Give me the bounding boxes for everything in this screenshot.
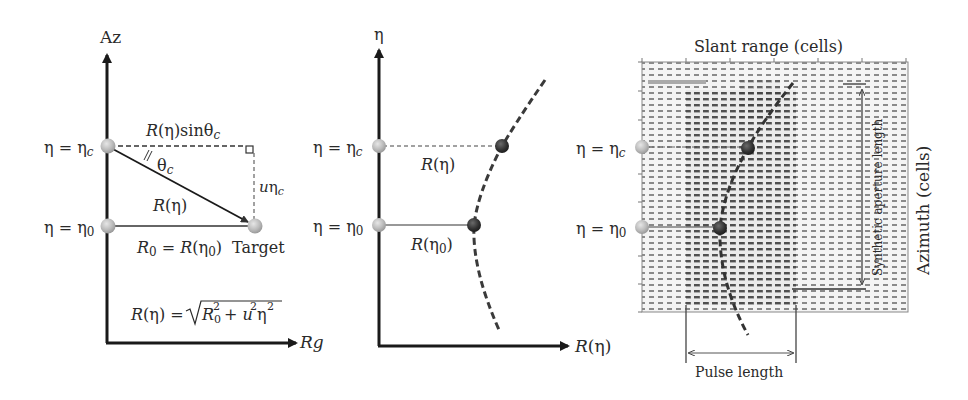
sensor-position-c-dot — [372, 139, 386, 153]
right-angle-marker — [246, 146, 253, 153]
axis-label-rg: Rg — [299, 332, 324, 352]
eta-c-label: η = ηc — [576, 139, 626, 160]
azimuth-label: Azimuth (cells) — [913, 146, 933, 276]
panel-range-curve: η R(η) η = ηc η = η0 R(η) R(η0) — [313, 25, 611, 356]
pulse-length-label: Pulse length — [695, 364, 783, 380]
curve-point-0-dot — [467, 218, 481, 232]
grid-caption — [648, 80, 706, 84]
panel-raw-data-grid: Slant range (cells) — [576, 37, 933, 380]
aperture-label: Synthetic aperture length — [871, 118, 885, 276]
svg-text:2: 2 — [267, 300, 274, 313]
sensor-position-0-dot — [101, 219, 116, 234]
eta-0-label: η = η0 — [44, 218, 94, 239]
sensor-position-0-dot — [635, 220, 649, 234]
range-equation: R(η) = R0 2 + u 2 η 2 — [130, 300, 282, 326]
slant-range-label: R(η) — [152, 196, 187, 215]
range-0-label: R(η0) — [410, 235, 453, 256]
axis-label-az: Az — [99, 27, 121, 47]
closest-range-label: R0 = R(η0) — [136, 238, 222, 259]
svg-text:+ u: + u — [224, 305, 253, 324]
svg-text:R(η) =: R(η) = — [130, 305, 184, 324]
eta-c-label: η = ηc — [44, 138, 94, 159]
eta-0-label: η = η0 — [576, 219, 626, 240]
svg-text:η: η — [257, 305, 267, 324]
range-migration-curve — [474, 80, 545, 332]
sensor-position-c-dot — [635, 140, 649, 154]
sensor-position-c-dot — [101, 139, 116, 154]
vertical-segment-label: uηc — [259, 178, 284, 198]
range-c-label: R(η) — [420, 155, 455, 174]
target-label: Target — [232, 238, 285, 257]
curve-point-c-dot — [741, 141, 755, 155]
axis-label-range: R(η) — [574, 336, 611, 356]
left-ticks — [638, 62, 642, 312]
energy-band — [686, 90, 796, 305]
slant-range-title: Slant range (cells) — [694, 37, 843, 56]
angle-label: θc — [157, 156, 174, 177]
eta-0-label: η = η0 — [313, 217, 363, 238]
panel-geometry: Az Rg η = ηc η = η0 RR(η)sinθ(η)sinθc θc… — [44, 27, 324, 352]
curve-point-0-dot — [713, 221, 727, 235]
top-segment-label: RR(η)sinθ(η)sinθc — [145, 121, 220, 142]
top-ticks — [642, 58, 906, 62]
diagram-canvas: Az Rg η = ηc η = η0 RR(η)sinθ(η)sinθc θc… — [0, 0, 968, 400]
svg-text:2: 2 — [213, 300, 220, 313]
eta-c-label: η = ηc — [313, 138, 363, 159]
sensor-position-0-dot — [372, 218, 386, 232]
target-dot — [248, 219, 263, 234]
axis-label-eta: η — [374, 25, 384, 44]
svg-text:2: 2 — [250, 300, 257, 313]
energy-band-top — [740, 80, 780, 120]
curve-point-c-dot — [495, 139, 509, 153]
